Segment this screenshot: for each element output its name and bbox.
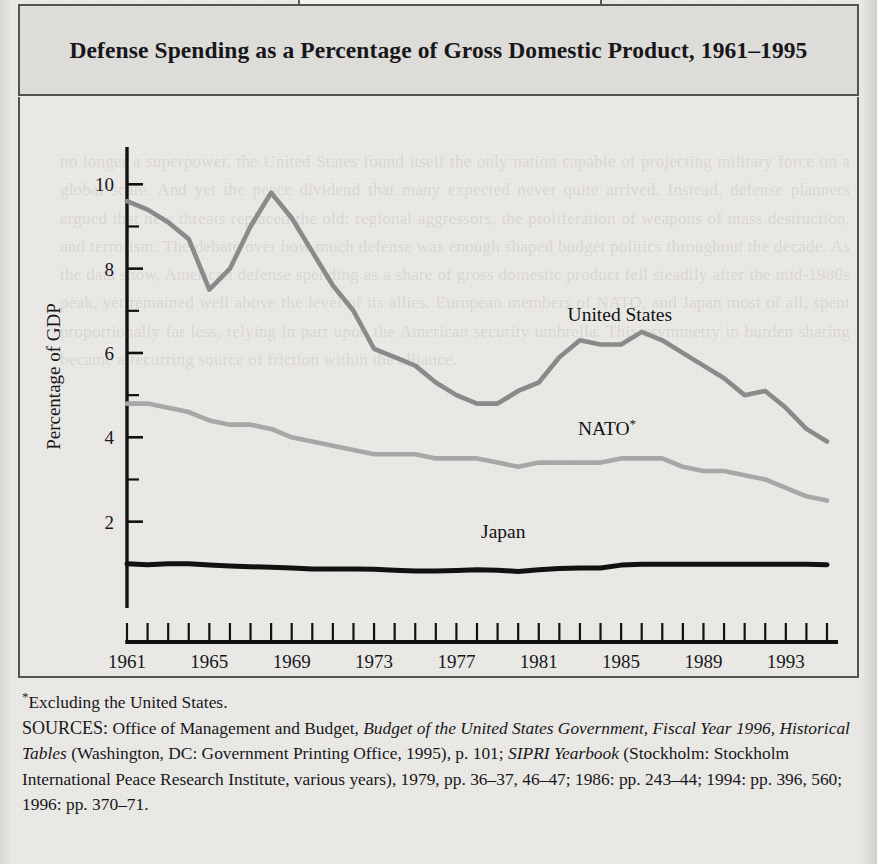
figure-title: Defense Spending as a Percentage of Gros…	[30, 35, 848, 66]
x-axis-tick-label: 1981	[520, 651, 558, 672]
x-axis-tick-label: 1969	[273, 651, 311, 672]
series-label-nato: NATO*	[578, 416, 636, 440]
y-axis-tick-label: 10	[95, 174, 114, 195]
x-axis-tick-label: 1973	[355, 651, 393, 672]
series-label-united-states: United States	[568, 304, 673, 325]
figure-container: FIGURE 13.1 Defense Spending as a Percen…	[18, 0, 859, 678]
footnote-excluding-us: *Excluding the United States.	[22, 690, 858, 715]
sources-block: SOURCES: Office of Management and Budget…	[22, 718, 850, 814]
figure-notes: *Excluding the United States. SOURCES: O…	[22, 690, 858, 817]
sources-label: SOURCES:	[22, 718, 108, 738]
x-axis-tick-label: 1961	[108, 651, 146, 672]
y-axis-title: Percentage of GDP	[43, 303, 64, 450]
series-line-nato	[127, 404, 827, 501]
x-axis-tick-label: 1977	[437, 651, 475, 672]
x-axis-tick-label: 1989	[684, 651, 722, 672]
sources-line1-a: Office of Management and Budget,	[108, 718, 363, 738]
x-axis-tick-label: 1993	[767, 651, 805, 672]
y-axis-tick-label: 8	[105, 259, 115, 280]
series-line-united-states	[127, 193, 827, 442]
sources-line2-italic: SIPRI Yearbook	[508, 743, 619, 763]
y-axis-tick-label: 4	[105, 427, 115, 448]
figure-title-band: Defense Spending as a Percentage of Gros…	[18, 4, 859, 96]
y-axis-tick-label: 6	[105, 343, 115, 364]
series-label-japan: Japan	[481, 521, 526, 542]
sources-line1-b: (Washington, DC: Government Printing Off…	[67, 743, 504, 763]
figure-plot-band: 2468101961196519691973197719811985198919…	[18, 97, 859, 678]
x-axis-tick-label: 1965	[190, 651, 228, 672]
y-axis-tick-label: 2	[105, 512, 115, 533]
footnote-text: Excluding the United States.	[29, 692, 228, 712]
defense-spending-line-chart: 2468101961196519691973197719811985198919…	[20, 97, 857, 674]
series-line-japan	[127, 564, 827, 572]
x-axis-tick-label: 1985	[602, 651, 640, 672]
